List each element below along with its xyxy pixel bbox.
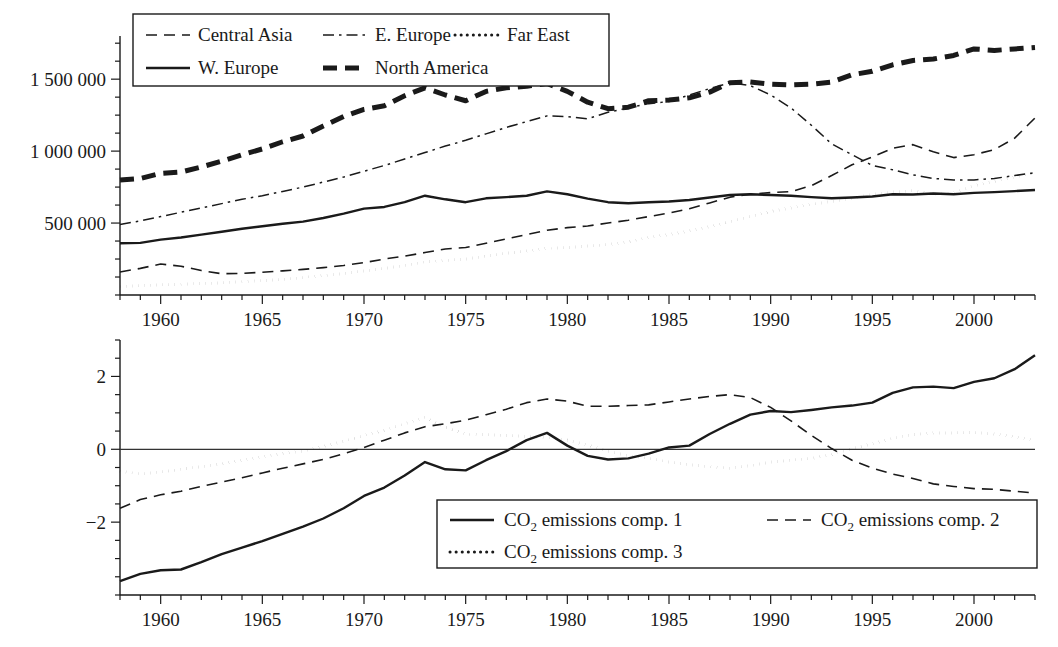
y-tick-label: 2 <box>97 366 107 387</box>
x-tick-label: 1995 <box>853 309 891 330</box>
x-tick-label: 1990 <box>752 609 790 630</box>
bottom-panel-legend: CO2 emissions comp. 1CO2 emissions comp.… <box>437 500 1037 568</box>
legend-entry-label: North America <box>375 57 489 78</box>
y-tick-label: 500 000 <box>44 213 106 234</box>
x-tick-label: 1970 <box>345 609 383 630</box>
x-tick-label: 1975 <box>447 609 485 630</box>
x-tick-label: 1965 <box>243 609 281 630</box>
x-tick-label: 1960 <box>142 309 180 330</box>
x-tick-label: 1995 <box>853 609 891 630</box>
y-tick-label: 0 <box>97 439 107 460</box>
legend-entry-label: Central Asia <box>198 24 293 45</box>
x-tick-label: 2000 <box>955 309 993 330</box>
x-tick-label: 1960 <box>142 609 180 630</box>
x-tick-label: 1980 <box>548 309 586 330</box>
x-tick-label: 1975 <box>447 309 485 330</box>
x-tick-label: 1990 <box>752 309 790 330</box>
legend-entry-label: W. Europe <box>198 57 279 78</box>
legend-entry-label: E. Europe <box>375 24 451 45</box>
x-tick-label: 2000 <box>955 609 993 630</box>
legend-entry-label: Far East <box>507 24 571 45</box>
x-tick-label: 1985 <box>650 609 688 630</box>
y-tick-label: 1 500 000 <box>30 69 106 90</box>
x-tick-label: 1980 <box>548 609 586 630</box>
x-tick-label: 1965 <box>243 309 281 330</box>
x-tick-label: 1970 <box>345 309 383 330</box>
y-tick-label: 1 000 000 <box>30 141 106 162</box>
y-tick-label: −2 <box>86 512 106 533</box>
top-panel-legend: Central AsiaE. EuropeFar EastW. EuropeNo… <box>133 14 609 86</box>
x-tick-label: 1985 <box>650 309 688 330</box>
co2-emissions-figure: 500 0001 000 0001 500 000196019651970197… <box>0 0 1058 647</box>
